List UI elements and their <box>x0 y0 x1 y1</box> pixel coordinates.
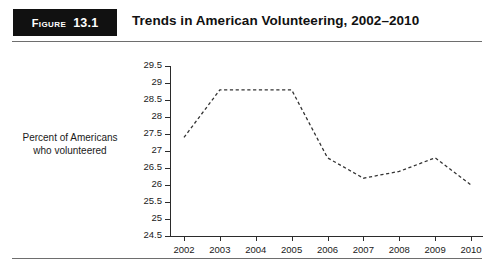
y-axis-tick-label: 27 <box>151 144 162 155</box>
figure-badge-word: Figure <box>32 17 66 29</box>
y-axis-tick-label: 28 <box>151 110 162 121</box>
x-axis-tick-label: 2008 <box>389 244 410 255</box>
figure-number-badge: Figure 13.1 <box>13 9 117 36</box>
y-axis-tick-label: 24.5 <box>144 229 163 240</box>
x-axis-tick-label: 2007 <box>353 244 374 255</box>
x-axis-tick-label: 2006 <box>317 244 338 255</box>
y-axis-title: Percent of Americans who volunteered <box>14 132 126 157</box>
y-axis-tick-label: 27.5 <box>144 127 163 138</box>
x-axis-tick-label: 2005 <box>281 244 302 255</box>
y-axis-tick-label: 25 <box>151 212 162 223</box>
figure-title: Trends in American Volunteering, 2002–20… <box>132 13 419 28</box>
figure-header: Figure 13.1 Trends in American Volunteer… <box>0 0 494 40</box>
series-line-volunteering <box>170 58 483 244</box>
header-divider <box>12 41 482 42</box>
x-axis-tick-label: 2009 <box>425 244 446 255</box>
x-axis-tick-label: 2002 <box>173 244 194 255</box>
x-axis-tick-label: 2004 <box>245 244 266 255</box>
plot-area: 29.52928.52827.52726.52625.52524.5 20022… <box>170 58 483 244</box>
y-axis-tick-label: 29.5 <box>144 59 163 70</box>
figure-badge-number: 13.1 <box>73 16 98 30</box>
y-axis-tick-label: 28.5 <box>144 93 163 104</box>
x-axis-tick-label: 2003 <box>209 244 230 255</box>
y-axis-tick-label: 26 <box>151 178 162 189</box>
footer-divider <box>12 258 482 259</box>
y-axis-tick-label: 26.5 <box>144 161 163 172</box>
y-axis-tick-label: 25.5 <box>144 195 163 206</box>
y-axis-tick-label: 29 <box>151 76 162 87</box>
chart-container: Percent of Americans who volunteered 29.… <box>0 44 494 256</box>
x-axis-tick-label: 2010 <box>460 244 481 255</box>
